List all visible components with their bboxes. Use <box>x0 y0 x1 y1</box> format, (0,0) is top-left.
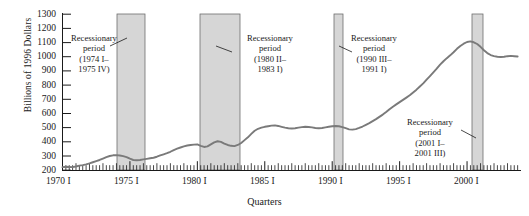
y-tick-label-300: 300 <box>22 151 56 161</box>
annotation-2-line-2: period <box>240 43 300 53</box>
annotation-3-line-2: period <box>344 43 404 53</box>
y-tick-label-500: 500 <box>22 122 56 132</box>
annotation-4-line-3: (2001 I– <box>400 138 460 148</box>
x-tick-label-1985: 1985 I <box>250 176 275 186</box>
annotation-4-line-2: period <box>400 127 460 137</box>
y-tick-label-1100: 1100 <box>22 37 56 47</box>
x-tick-label-1970: 1970 I <box>46 176 71 186</box>
y-tick-label-600: 600 <box>22 108 56 118</box>
annotation-2-line-1: Recessionary <box>240 33 300 43</box>
recession-annotation-1: Recessionary period (1974 I– 1975 IV) <box>64 33 124 75</box>
x-tick-label-1975: 1975 I <box>114 176 139 186</box>
y-tick-label-1000: 1000 <box>22 51 56 61</box>
annotation-1-line-2: period <box>64 43 124 53</box>
recession-annotation-4: Recessionary period (2001 I– 2001 III) <box>400 117 460 159</box>
y-tick-label-1300: 1300 <box>22 9 56 19</box>
recession-annotation-3: Recessionary period (1990 III– 1991 I) <box>344 33 404 75</box>
annotation-1-line-1: Recessionary <box>64 33 124 43</box>
annotation-2-line-3: (1980 II– <box>240 54 300 64</box>
annotation-4-line-1: Recessionary <box>400 117 460 127</box>
annotation-4-line-4: 2001 III) <box>400 148 460 158</box>
annotation-3-line-3: (1990 III– <box>344 54 404 64</box>
y-tick-label-200: 200 <box>22 165 56 175</box>
x-tick-label-1990: 1990 I <box>318 176 343 186</box>
x-tick-label-1980: 1980 I <box>182 176 207 186</box>
y-tick-label-1200: 1200 <box>22 23 56 33</box>
y-tick-label-700: 700 <box>22 94 56 104</box>
annotation-1-line-3: (1974 I– <box>64 54 124 64</box>
recession-annotation-2: Recessionary period (1980 II– 1983 I) <box>240 33 300 75</box>
annotation-2-line-4: 1983 I) <box>240 64 300 74</box>
x-axis-title: Quarters <box>0 196 529 207</box>
y-tick-label-800: 800 <box>22 80 56 90</box>
annotation-1-line-4: 1975 IV) <box>64 64 124 74</box>
y-tick-label-400: 400 <box>22 136 56 146</box>
chart-figure: Billions of 1996 Dollars 1300 1200 1100 … <box>0 0 529 216</box>
x-tick-label-2000: 2000 I <box>454 176 479 186</box>
x-tick-label-1995: 1995 I <box>386 176 411 186</box>
annotation-3-line-1: Recessionary <box>344 33 404 43</box>
y-tick-label-900: 900 <box>22 65 56 75</box>
recession-band-3 <box>334 14 343 170</box>
recession-band-4 <box>472 14 483 170</box>
annotation-3-line-4: 1991 I) <box>344 64 404 74</box>
